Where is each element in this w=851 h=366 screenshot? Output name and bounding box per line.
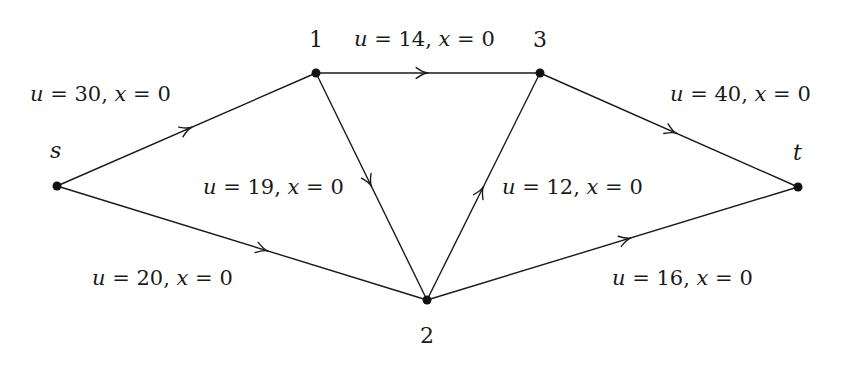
edge-label-2-t: u = 16, x = 0 <box>612 268 753 289</box>
node-label-3: 3 <box>533 29 547 51</box>
node-s <box>53 182 62 191</box>
edge-label-1-2: u = 19, x = 0 <box>203 177 344 198</box>
flow-value: 0 <box>157 82 170 106</box>
capacity-value: 16 <box>656 266 683 290</box>
flow-value: 0 <box>330 175 343 199</box>
edge-label-1-3: u = 14, x = 0 <box>354 29 495 50</box>
edge-label-s-1: u = 30, x = 0 <box>30 84 171 105</box>
graph-canvas <box>0 0 851 366</box>
node-3 <box>536 69 545 78</box>
edge-label-2-3: u = 12, x = 0 <box>502 177 643 198</box>
node-t <box>794 183 803 192</box>
capacity-value: 30 <box>74 82 101 106</box>
flow-value: 0 <box>739 266 752 290</box>
node-label-s: s <box>50 140 61 162</box>
flow-value: 0 <box>481 27 494 51</box>
node-1 <box>312 69 321 78</box>
flow-network-diagram: u = 30, x = 0u = 20, x = 0u = 14, x = 0u… <box>0 0 851 366</box>
edge-label-3-t: u = 40, x = 0 <box>670 84 811 105</box>
capacity-value: 20 <box>136 266 163 290</box>
node-label-2: 2 <box>420 325 434 347</box>
edge-label-s-2: u = 20, x = 0 <box>92 268 233 289</box>
node-label-1: 1 <box>309 29 323 51</box>
capacity-value: 40 <box>714 82 741 106</box>
flow-value: 0 <box>219 266 232 290</box>
capacity-value: 19 <box>247 175 274 199</box>
capacity-value: 14 <box>398 27 425 51</box>
node-2 <box>423 296 432 305</box>
capacity-value: 12 <box>546 175 573 199</box>
flow-value: 0 <box>797 82 810 106</box>
flow-value: 0 <box>629 175 642 199</box>
edge-1-3 <box>316 68 540 79</box>
node-label-t: t <box>793 142 802 164</box>
